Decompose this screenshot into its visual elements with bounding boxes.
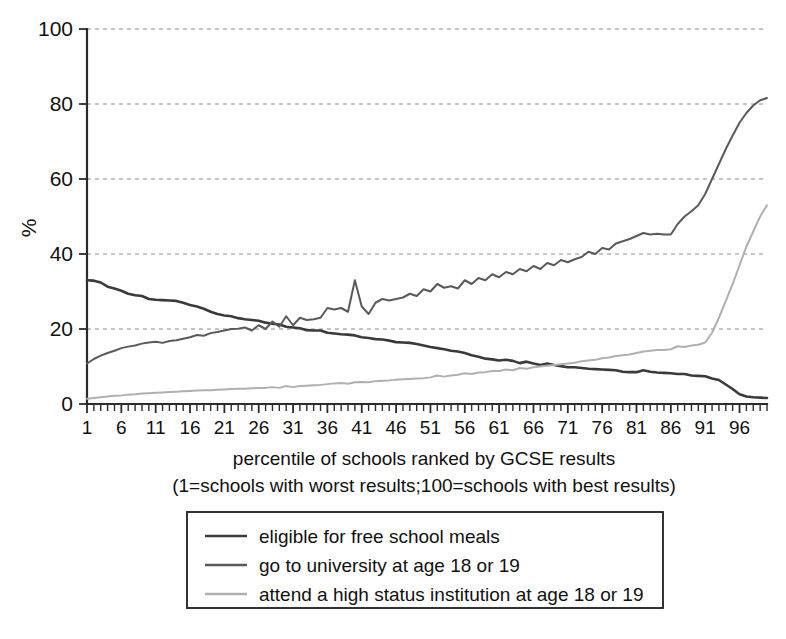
x-tick-label-51: 51 [420, 417, 441, 438]
x-tick-label-46: 46 [386, 417, 407, 438]
gridlines [87, 29, 767, 329]
x-tick-label-36: 36 [317, 417, 338, 438]
series-line-1 [87, 98, 767, 364]
y-tick-label-60: 60 [50, 167, 73, 190]
x-tick-label-1: 1 [82, 417, 93, 438]
y-axis-ticks [79, 29, 87, 404]
x-tick-label-56: 56 [454, 417, 475, 438]
x-tick-label-71: 71 [557, 417, 578, 438]
axes [87, 29, 767, 404]
chart-figure: 020406080100 161116212631364146515661667… [0, 0, 786, 639]
x-axis-title: percentile of schools ranked by GCSE res… [233, 448, 615, 469]
line-chart: 020406080100 161116212631364146515661667… [0, 0, 786, 639]
legend-label-0: eligible for free school meals [259, 526, 500, 547]
y-axis-tick-labels: 020406080100 [38, 17, 73, 415]
x-tick-label-96: 96 [729, 417, 750, 438]
data-series [87, 98, 767, 399]
y-axis-title: % [17, 219, 40, 238]
y-tick-label-0: 0 [61, 392, 73, 415]
x-axis-tick-labels: 16111621263136414651566166717681869196 [82, 417, 750, 438]
x-tick-label-16: 16 [179, 417, 200, 438]
legend-label-1: go to university at age 18 or 19 [259, 555, 520, 576]
x-tick-label-81: 81 [626, 417, 647, 438]
x-tick-label-86: 86 [660, 417, 681, 438]
x-tick-label-31: 31 [282, 417, 303, 438]
y-tick-label-80: 80 [50, 92, 73, 115]
legend-label-2: attend a high status institution at age … [259, 584, 644, 605]
x-tick-label-61: 61 [489, 417, 510, 438]
y-tick-label-40: 40 [50, 242, 73, 265]
x-axis-subtitle: (1=schools with worst results;100=school… [172, 475, 676, 496]
chart-legend: eligible for free school mealsgo to univ… [187, 512, 663, 608]
x-tick-label-6: 6 [116, 417, 127, 438]
series-line-0 [87, 280, 767, 398]
y-tick-label-20: 20 [50, 317, 73, 340]
x-tick-label-21: 21 [214, 417, 235, 438]
x-tick-label-76: 76 [592, 417, 613, 438]
y-tick-label-100: 100 [38, 17, 73, 40]
x-tick-label-11: 11 [146, 417, 166, 438]
x-tick-label-41: 41 [351, 417, 372, 438]
x-axis-ticks [87, 404, 767, 413]
x-tick-label-26: 26 [248, 417, 269, 438]
x-tick-label-66: 66 [523, 417, 544, 438]
x-tick-label-91: 91 [695, 417, 716, 438]
